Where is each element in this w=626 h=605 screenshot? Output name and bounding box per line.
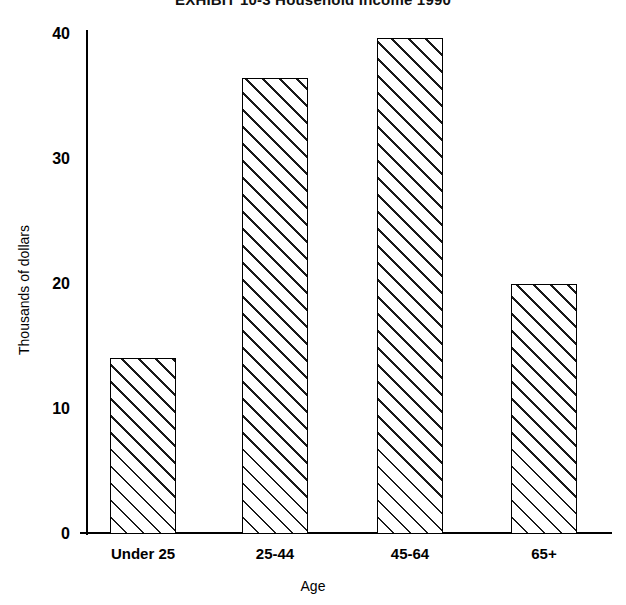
y-axis-title: Thousands of dollars — [12, 175, 36, 405]
x-tick-label-45-64: 45-64 — [360, 545, 460, 562]
x-tick-label-25-44: 25-44 — [225, 545, 325, 562]
y-tick-label-0: 0 — [30, 526, 70, 542]
y-axis-line — [86, 30, 88, 535]
y-axis-title-text: Thousands of dollars — [16, 225, 32, 355]
x-tick-label-under-25: Under 25 — [93, 545, 193, 562]
y-tick-label-30: 30 — [30, 151, 70, 167]
y-tick-label-20: 20 — [30, 276, 70, 292]
x-axis-title: Age — [0, 578, 626, 594]
bar-25-44 — [242, 78, 308, 534]
chart-title: EXHIBIT 10-3 Household Income 1990 — [0, 0, 626, 8]
x-tick-label-65-plus: 65+ — [494, 545, 594, 562]
bar-under-25 — [110, 358, 176, 534]
bar-65-plus — [511, 284, 577, 534]
y-tick-label-40: 40 — [30, 26, 70, 42]
bar-45-64 — [377, 38, 443, 534]
y-tick-label-10: 10 — [30, 401, 70, 417]
